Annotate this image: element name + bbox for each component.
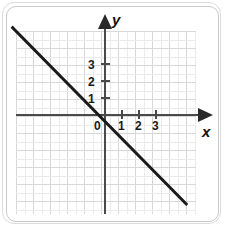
y-axis-label: y — [112, 12, 120, 27]
y-tick-label-3: 3 — [88, 59, 95, 71]
plot-area — [16, 31, 196, 214]
x-tick-2 — [138, 110, 140, 119]
x-axis-arrow-icon — [198, 108, 213, 122]
y-axis — [104, 22, 106, 214]
x-tick-label-1: 1 — [118, 120, 125, 132]
grid-lines — [16, 31, 196, 214]
x-axis-label: x — [202, 124, 210, 139]
x-tick-label-3: 3 — [152, 120, 159, 132]
y-tick-3 — [101, 63, 110, 65]
y-tick-label-1: 1 — [88, 93, 95, 105]
y-tick-1 — [101, 97, 110, 99]
y-axis-arrow-icon — [98, 14, 112, 29]
y-tick-label-2: 2 — [88, 76, 95, 88]
origin-label: 0 — [94, 120, 101, 132]
graph-figure: 1 2 3 1 2 3 0 x y — [0, 0, 226, 229]
y-tick-2 — [101, 80, 110, 82]
x-tick-1 — [121, 110, 123, 119]
x-tick-label-2: 2 — [135, 120, 142, 132]
x-axis — [16, 114, 200, 116]
x-tick-3 — [155, 110, 157, 119]
